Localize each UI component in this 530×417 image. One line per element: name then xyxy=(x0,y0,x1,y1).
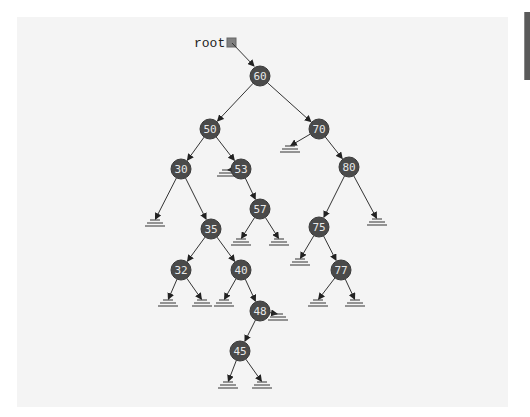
node-value: 53 xyxy=(234,163,247,176)
tree-edge xyxy=(267,83,310,122)
node-value: 45 xyxy=(233,345,246,358)
tree-edge xyxy=(245,279,255,301)
tree-edge xyxy=(265,217,278,238)
tree-edge xyxy=(324,176,345,217)
node-value: 48 xyxy=(253,305,266,318)
tree-edge xyxy=(242,217,255,238)
node-value: 77 xyxy=(334,264,347,277)
null-terminator-icon xyxy=(290,259,310,265)
root-label: root xyxy=(194,36,225,51)
tree-edge xyxy=(187,137,204,160)
null-terminator-icon xyxy=(214,300,234,306)
tree-edge xyxy=(216,137,234,160)
tree-edge xyxy=(245,178,255,199)
null-terminator-icon xyxy=(280,146,300,152)
null-terminator-icon xyxy=(231,239,251,245)
node-value: 30 xyxy=(174,163,187,176)
tree-edge xyxy=(187,278,202,299)
node-value: 57 xyxy=(253,203,266,216)
null-terminator-icon xyxy=(158,300,178,306)
tree-node-48: 48 xyxy=(250,301,270,321)
tree-edge xyxy=(155,178,176,219)
tree-edge xyxy=(168,279,177,299)
null-terminator-icon xyxy=(345,300,365,306)
node-value: 40 xyxy=(234,264,247,277)
tree-node-50: 50 xyxy=(200,119,220,139)
tree-edge xyxy=(325,137,342,159)
null-terminator-icon xyxy=(252,382,272,388)
tree-node-70: 70 xyxy=(309,119,329,139)
node-value: 80 xyxy=(342,161,355,174)
tree-edge xyxy=(185,178,206,219)
node-value: 60 xyxy=(253,70,266,83)
null-terminator-icon xyxy=(269,239,289,245)
tree-node-57: 57 xyxy=(250,199,270,219)
tree-node-40: 40 xyxy=(231,260,251,280)
tree-edge xyxy=(354,176,377,218)
tree-edge xyxy=(345,279,354,299)
tree-node-35: 35 xyxy=(201,219,221,239)
edges xyxy=(155,83,376,382)
node-value: 50 xyxy=(203,123,216,136)
tree-edge xyxy=(246,359,262,381)
tree-node-30: 30 xyxy=(171,159,191,179)
tree-node-80: 80 xyxy=(339,157,359,177)
tree-node-53: 53 xyxy=(231,159,251,179)
tree-edge xyxy=(217,237,235,261)
tree-edge xyxy=(187,237,205,261)
null-terminator-icon xyxy=(145,220,165,226)
node-value: 75 xyxy=(312,221,325,234)
null-terminator-icon xyxy=(192,300,212,306)
null-terminator-icon xyxy=(367,219,387,225)
tree-node-45: 45 xyxy=(230,341,250,361)
tree-node-75: 75 xyxy=(309,217,329,237)
null-terminator-icon xyxy=(268,314,288,320)
null-terminator-icon xyxy=(308,300,328,306)
tree-edge xyxy=(291,134,311,145)
node-value: 32 xyxy=(174,264,187,277)
tree-edge xyxy=(224,279,236,299)
tree-node-32: 32 xyxy=(171,260,191,280)
tree-edge xyxy=(218,83,254,121)
null-terminator-icon xyxy=(218,382,238,388)
tree-edge xyxy=(301,236,314,259)
tree-edge xyxy=(324,236,336,260)
node-value: 70 xyxy=(312,123,325,136)
tree-edge xyxy=(245,320,256,341)
node-value: 35 xyxy=(204,223,217,236)
tree-node-77: 77 xyxy=(331,260,351,280)
tree-node-60: 60 xyxy=(250,66,270,86)
root-arrow xyxy=(232,43,254,66)
tree-edge xyxy=(228,360,236,381)
nodes: 6050703053805735753240774845 xyxy=(171,66,359,361)
root-pointer: root xyxy=(194,36,254,66)
tree-edge xyxy=(319,278,335,299)
